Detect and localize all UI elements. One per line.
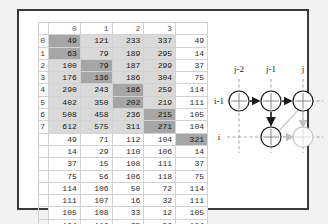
table-cell[interactable]: 110	[112, 145, 144, 157]
table-cell-extra[interactable]: 75	[176, 72, 208, 84]
table-cell[interactable]: 106	[80, 182, 112, 194]
table-cell[interactable]: 111	[176, 195, 208, 207]
table-cell[interactable]: 118	[144, 170, 176, 182]
table-cell[interactable]: 71	[80, 133, 112, 145]
table-cell[interactable]: 108	[80, 207, 112, 219]
table-cell[interactable]: 32	[144, 195, 176, 207]
table-cell[interactable]: 37	[48, 158, 80, 170]
table-cell-extra[interactable]: 114	[176, 84, 208, 96]
table-cell[interactable]: 508	[48, 109, 80, 121]
table-cell[interactable]: 12	[144, 207, 176, 219]
table-cell[interactable]: 112	[112, 133, 144, 145]
table-cell[interactable]: 186	[112, 84, 144, 96]
row-index-cell[interactable]: 3	[39, 72, 49, 84]
row-index-cell[interactable]: 6	[39, 109, 49, 121]
column-header-3[interactable]: 3	[144, 23, 176, 35]
table-cell[interactable]: 75	[176, 170, 208, 182]
table-cell[interactable]: 106	[112, 170, 144, 182]
row-index-cell[interactable]: 2	[39, 59, 49, 71]
table-cell[interactable]: 243	[80, 84, 112, 96]
table-cell[interactable]: 104	[48, 219, 80, 224]
table-cell[interactable]: 49	[48, 133, 80, 145]
table-cell[interactable]: 350	[80, 96, 112, 108]
table-cell[interactable]: 14	[176, 145, 208, 157]
table-cell[interactable]: 49	[48, 35, 80, 47]
table-cell[interactable]: 15	[80, 158, 112, 170]
table-cell[interactable]: 337	[144, 35, 176, 47]
table-cell[interactable]: 116	[80, 219, 112, 224]
column-header-2[interactable]: 2	[112, 23, 144, 35]
table-cell[interactable]: 29	[80, 145, 112, 157]
table-cell[interactable]: 612	[48, 121, 80, 133]
table-cell[interactable]: 107	[80, 195, 112, 207]
table-cell[interactable]: 79	[80, 47, 112, 59]
table-cell[interactable]: 187	[112, 59, 144, 71]
table-cell[interactable]: 108	[112, 158, 144, 170]
numeric-table-region: 0 1 2 3 04912123333749163791892951421007…	[38, 22, 208, 222]
table-cell-extra[interactable]: 104	[176, 121, 208, 133]
row-index-cell[interactable]: 7	[39, 121, 49, 133]
table-cell[interactable]: 575	[80, 121, 112, 133]
table-cell[interactable]: 304	[144, 72, 176, 84]
row-index-cell[interactable]: 0	[39, 35, 49, 47]
table-cell[interactable]: 136	[80, 72, 112, 84]
table-cell[interactable]: 311	[112, 121, 144, 133]
table-cell[interactable]: 295	[144, 47, 176, 59]
table-cell[interactable]: 202	[112, 96, 144, 108]
table-row: 755610611875	[39, 170, 208, 182]
table-cell[interactable]: 458	[80, 109, 112, 121]
table-cell[interactable]: 79	[80, 59, 112, 71]
column-header-0[interactable]: 0	[48, 23, 80, 35]
table-cell[interactable]: 105	[176, 207, 208, 219]
table-row: 1637918929514	[39, 47, 208, 59]
table-cell[interactable]: 236	[112, 109, 144, 121]
table-cell[interactable]: 402	[48, 96, 80, 108]
table-cell[interactable]: 189	[112, 47, 144, 59]
table-cell[interactable]: 56	[144, 219, 176, 224]
table-cell[interactable]: 37	[176, 158, 208, 170]
table-cell[interactable]: 121	[80, 35, 112, 47]
row-index-cell[interactable]: 4	[39, 84, 49, 96]
table-cell[interactable]: 104	[144, 133, 176, 145]
table-cell[interactable]: 186	[112, 72, 144, 84]
table-cell[interactable]: 106	[144, 145, 176, 157]
row-index-cell[interactable]: 1	[39, 47, 49, 59]
table-cell-highlighted[interactable]: 321	[176, 133, 208, 145]
table-cell-extra[interactable]: 105	[176, 109, 208, 121]
table-row: 371510811137	[39, 158, 208, 170]
table-cell-extra[interactable]: 49	[176, 35, 208, 47]
table-cell[interactable]: 290	[48, 84, 80, 96]
table-cell[interactable]: 299	[144, 59, 176, 71]
table-cell[interactable]: 75	[112, 219, 144, 224]
table-cell[interactable]: 271	[144, 121, 176, 133]
table-cell[interactable]: 14	[48, 145, 80, 157]
table-cell[interactable]: 75	[48, 170, 80, 182]
table-cell[interactable]: 100	[48, 59, 80, 71]
table-cell[interactable]: 111	[144, 158, 176, 170]
table-cell[interactable]: 114	[176, 182, 208, 194]
table-cell[interactable]: 111	[48, 195, 80, 207]
table-cell[interactable]: 215	[144, 109, 176, 121]
table-cell[interactable]: 233	[112, 35, 144, 47]
table-cell[interactable]: 104	[176, 219, 208, 224]
table-cell[interactable]: 33	[112, 207, 144, 219]
table-cell[interactable]: 114	[48, 182, 80, 194]
table-cell-extra[interactable]: 37	[176, 59, 208, 71]
table-cell[interactable]: 16	[112, 195, 144, 207]
row-index-cell[interactable]: 5	[39, 96, 49, 108]
table-cell[interactable]: 105	[48, 207, 80, 219]
row-index-spacer	[39, 207, 49, 219]
table-cell-extra[interactable]: 111	[176, 96, 208, 108]
column-header-1[interactable]: 1	[80, 23, 112, 35]
table-row: 21007918729937	[39, 59, 208, 71]
table-cell[interactable]: 63	[48, 47, 80, 59]
table-cell[interactable]: 56	[80, 170, 112, 182]
table-cell[interactable]: 72	[144, 182, 176, 194]
table-cell[interactable]: 50	[112, 182, 144, 194]
table-cell[interactable]: 176	[48, 72, 80, 84]
row-index-spacer	[39, 170, 49, 182]
table-cell[interactable]: 259	[144, 84, 176, 96]
table-cell-extra[interactable]: 14	[176, 47, 208, 59]
screenshot-root: 0 1 2 3 04912123333749163791892951421007…	[0, 0, 328, 224]
table-cell[interactable]: 219	[144, 96, 176, 108]
